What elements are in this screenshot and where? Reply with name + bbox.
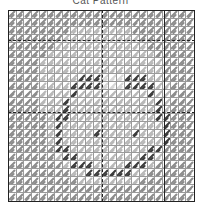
stitch-cell: [132, 35, 140, 43]
stitch-cell: [117, 27, 125, 35]
stitch-cell: [171, 193, 179, 201]
stitch-cell: [55, 11, 63, 19]
stitch-cell: [48, 19, 56, 27]
stitch-cell: [148, 193, 156, 201]
stitch-cell: [86, 193, 94, 201]
stitch-cell: [78, 138, 86, 146]
stitch-cell: [125, 51, 133, 59]
stitch-cell: [40, 161, 48, 169]
stitch-cell: [179, 146, 187, 154]
stitch-cell: [155, 35, 163, 43]
stitch-cell: [171, 27, 179, 35]
stitch-cell: [117, 153, 125, 161]
stitch-cell: [109, 43, 117, 51]
pattern-title: Cat Pattern: [0, 0, 201, 6]
stitch-cell: [148, 122, 156, 130]
stitch-cell: [78, 161, 86, 169]
stitch-cell: [109, 153, 117, 161]
stitch-cell: [63, 58, 71, 66]
stitch-cell: [86, 11, 94, 19]
stitch-cell: [9, 82, 17, 90]
stitch-cell: [179, 51, 187, 59]
stitch-cell: [140, 58, 148, 66]
stitch-cell: [179, 98, 187, 106]
stitch-cell: [86, 51, 94, 59]
stitch-cell: [148, 185, 156, 193]
stitch-cell: [78, 43, 86, 51]
stitch-cell: [148, 66, 156, 74]
stitch-cell: [186, 177, 194, 185]
stitch-cell: [94, 161, 102, 169]
stitch-cell: [171, 35, 179, 43]
stitch-cell: [94, 74, 102, 82]
stitch-cell: [55, 58, 63, 66]
stitch-cell: [48, 35, 56, 43]
stitch-cell: [78, 114, 86, 122]
stitch-cell: [24, 58, 32, 66]
stitch-cell: [94, 169, 102, 177]
stitch-cell: [94, 193, 102, 201]
stitch-cell: [32, 51, 40, 59]
stitch-cell: [9, 43, 17, 51]
stitch-cell: [125, 43, 133, 51]
stitch-cell: [9, 193, 17, 201]
stitch-cell: [179, 74, 187, 82]
stitch-cell: [71, 74, 79, 82]
stitch-cell: [171, 122, 179, 130]
stitch-cell: [40, 169, 48, 177]
stitch-cell: [55, 161, 63, 169]
stitch-cell: [86, 138, 94, 146]
stitch-cell: [155, 122, 163, 130]
stitch-cell: [94, 98, 102, 106]
stitch-cell: [140, 43, 148, 51]
stitch-cell: [71, 19, 79, 27]
stitch-cell: [171, 82, 179, 90]
stitch-cell: [24, 82, 32, 90]
stitch-cell: [171, 153, 179, 161]
stitch-cell: [94, 90, 102, 98]
stitch-cell: [155, 114, 163, 122]
stitch-cell: [86, 43, 94, 51]
stitch-cell: [125, 193, 133, 201]
stitch-cell: [9, 185, 17, 193]
stitch-cell: [179, 11, 187, 19]
stitch-cell: [186, 66, 194, 74]
stitch-cell: [94, 130, 102, 138]
stitch-cell: [48, 153, 56, 161]
stitch-cell: [140, 19, 148, 27]
stitch-cell: [125, 35, 133, 43]
stitch-cell: [148, 35, 156, 43]
stitch-cell: [32, 58, 40, 66]
stitch-cell: [148, 177, 156, 185]
stitch-cell: [86, 58, 94, 66]
stitch-cell: [117, 185, 125, 193]
stitch-cell: [17, 161, 25, 169]
stitch-cell: [132, 122, 140, 130]
stitch-cell: [117, 98, 125, 106]
stitch-cell: [55, 19, 63, 27]
stitch-cell: [132, 185, 140, 193]
stitch-cell: [63, 11, 71, 19]
stitch-cell: [17, 66, 25, 74]
stitch-cell: [24, 138, 32, 146]
stitch-cell: [132, 43, 140, 51]
stitch-cell: [117, 19, 125, 27]
stitch-cell: [148, 19, 156, 27]
stitch-cell: [125, 161, 133, 169]
stitch-cell: [109, 27, 117, 35]
stitch-cell: [109, 51, 117, 59]
stitch-cell: [179, 35, 187, 43]
stitch-cell: [186, 98, 194, 106]
stitch-cell: [40, 58, 48, 66]
stitch-cell: [155, 66, 163, 74]
stitch-cell: [125, 66, 133, 74]
stitch-cell: [94, 43, 102, 51]
stitch-cell: [140, 122, 148, 130]
stitch-cell: [48, 74, 56, 82]
stitch-cell: [32, 66, 40, 74]
stitch-cell: [171, 11, 179, 19]
stitch-cell: [71, 130, 79, 138]
stitch-cell: [132, 153, 140, 161]
stitch-cell: [63, 122, 71, 130]
stitch-cell: [94, 153, 102, 161]
